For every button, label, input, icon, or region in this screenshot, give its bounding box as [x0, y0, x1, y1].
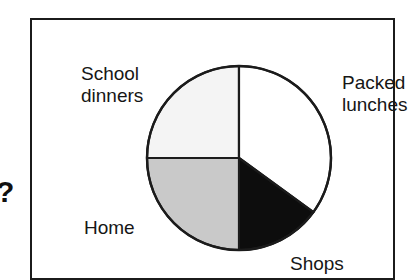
pie-slice-home[interactable]: [147, 158, 239, 250]
pie-label-school-dinners: School dinners: [81, 63, 143, 107]
pie-label-shops: Shops: [290, 253, 344, 275]
pie-slice-school-dinners[interactable]: [147, 66, 239, 158]
figure-frame: School dinners Packed lunches Home Shops: [30, 18, 395, 280]
question-mark-marker: ?: [0, 177, 14, 207]
pie-chart: [145, 64, 333, 252]
pie-label-home: Home: [84, 217, 135, 239]
pie-label-packed-lunches: Packed lunches: [342, 72, 408, 116]
pie-chart-svg: [145, 64, 333, 252]
